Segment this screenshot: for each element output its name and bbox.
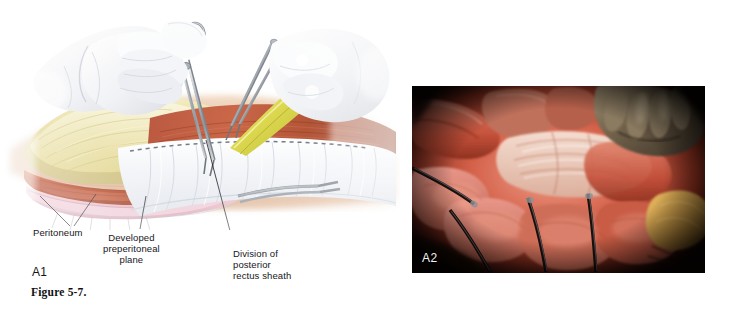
panel-a2: A2 bbox=[412, 86, 705, 273]
abdominal-wall-illustration bbox=[0, 0, 400, 230]
label-developed-preperitoneal-plane: Developed preperitoneal plane bbox=[103, 233, 160, 265]
figure-caption: Figure 5-7. bbox=[31, 286, 87, 298]
intraoperative-photograph bbox=[412, 86, 705, 273]
panel-a1-tag: A1 bbox=[32, 265, 47, 279]
label-division-of-posterior-rectus-sheath: Division of posterior rectus sheath bbox=[233, 249, 291, 281]
panel-a2-tag: A2 bbox=[422, 251, 437, 265]
label-peritoneum: Peritoneum bbox=[33, 228, 83, 239]
panel-a1: Peritoneum Developed preperitoneal plane… bbox=[0, 0, 400, 311]
figure-page: Peritoneum Developed preperitoneal plane… bbox=[0, 0, 737, 311]
